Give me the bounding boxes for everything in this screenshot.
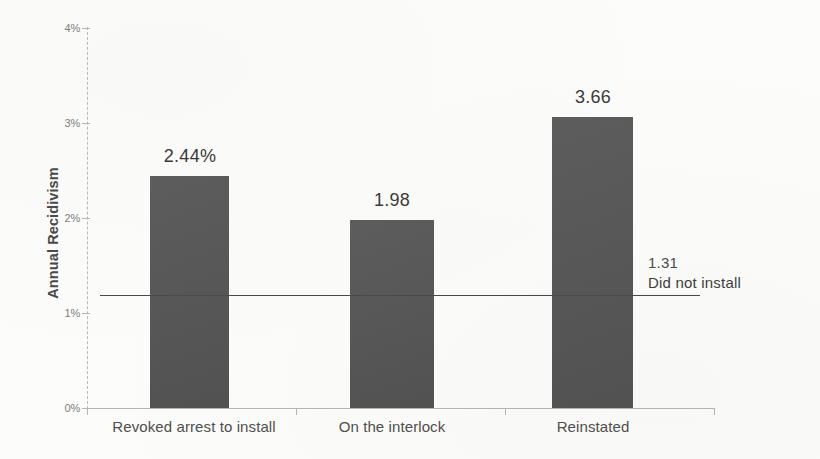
y-tick-mark-3 — [82, 123, 90, 124]
x-axis-line — [87, 408, 715, 409]
y-tick-label-3: 3% — [40, 117, 80, 129]
y-axis-title: Annual Recidivism — [45, 133, 61, 333]
y-tick-mark-4 — [82, 28, 90, 29]
reference-line-caption: Did not install — [648, 274, 741, 291]
x-tick-mark-3 — [714, 408, 715, 415]
y-tick-mark-1 — [82, 313, 90, 314]
y-tick-mark-2 — [82, 218, 90, 219]
y-tick-mark-0 — [82, 408, 90, 409]
bar-chart: 0% 1% 2% 3% 4% Annual Recidivism 2.44% R… — [0, 0, 820, 459]
x-tick-mark-2 — [505, 408, 506, 415]
x-axis-category-label-2: Reinstated — [488, 418, 698, 435]
bar-value-label-1: 1.98 — [332, 190, 452, 211]
reference-line-value-label: 1.31 — [648, 254, 678, 271]
x-tick-mark-0 — [87, 408, 88, 415]
y-tick-label-4: 4% — [40, 22, 80, 34]
x-tick-mark-1 — [296, 408, 297, 415]
y-tick-label-0: 0% — [40, 402, 80, 414]
bar-on-the-interlock[interactable] — [350, 220, 434, 408]
bar-value-label-0: 2.44% — [130, 146, 250, 167]
bar-value-label-2: 3.66 — [533, 87, 653, 108]
reference-line-did-not-install — [100, 295, 700, 296]
chart-page: 0% 1% 2% 3% 4% Annual Recidivism 2.44% R… — [0, 0, 820, 459]
bar-revoked-arrest-to-install[interactable] — [150, 176, 229, 408]
bar-reinstated[interactable] — [552, 117, 633, 408]
x-axis-category-label-1: On the interlock — [277, 418, 507, 435]
